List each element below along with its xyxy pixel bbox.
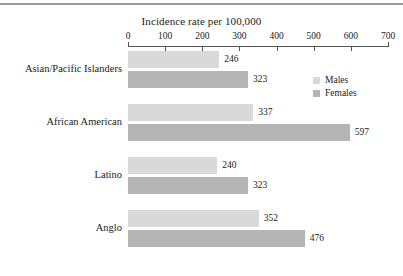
bar-females bbox=[128, 177, 248, 194]
bar-value-label: 246 bbox=[219, 54, 238, 64]
x-tick-label: 500 bbox=[307, 31, 321, 41]
bar-females bbox=[128, 71, 248, 88]
bar-females bbox=[128, 230, 305, 247]
category-label: Anglo bbox=[6, 222, 128, 233]
bar-males bbox=[128, 51, 219, 68]
bar-value-label: 323 bbox=[248, 180, 267, 190]
category-label: African American bbox=[6, 116, 128, 127]
x-tick-label: 200 bbox=[195, 31, 209, 41]
chart-legend: MalesFemales bbox=[313, 74, 357, 100]
legend-item: Males bbox=[313, 74, 357, 86]
x-tick-mark bbox=[388, 42, 389, 47]
bar-males bbox=[128, 104, 253, 121]
x-tick-label: 400 bbox=[269, 31, 283, 41]
legend-swatch-icon bbox=[313, 77, 320, 84]
category-label: Asian/Pacific Islanders bbox=[6, 63, 128, 74]
category-axis-labels: Asian/Pacific IslandersAfrican AmericanL… bbox=[0, 47, 128, 262]
bar-males bbox=[128, 210, 259, 227]
bar-group: 337597 bbox=[128, 104, 388, 153]
bar-value-label: 323 bbox=[248, 74, 267, 84]
x-tick-label: 100 bbox=[158, 31, 172, 41]
bar-group: 240323 bbox=[128, 157, 388, 206]
category-label: Latino bbox=[6, 169, 128, 180]
x-tick-label: 300 bbox=[232, 31, 246, 41]
bar-value-label: 597 bbox=[350, 127, 369, 137]
top-divider bbox=[0, 3, 403, 5]
bar-value-label: 476 bbox=[305, 233, 324, 243]
bar-value-label: 352 bbox=[259, 213, 278, 223]
legend-item: Females bbox=[313, 87, 357, 99]
legend-label: Males bbox=[325, 75, 348, 85]
legend-label: Females bbox=[325, 88, 357, 98]
x-tick-label: 0 bbox=[126, 31, 131, 41]
legend-swatch-icon bbox=[313, 90, 320, 97]
chart-title: Incidence rate per 100,000 bbox=[0, 15, 403, 27]
bar-value-label: 337 bbox=[253, 107, 272, 117]
bar-value-label: 240 bbox=[217, 160, 236, 170]
bar-males bbox=[128, 157, 217, 174]
x-tick-label: 600 bbox=[344, 31, 358, 41]
x-tick-label: 700 bbox=[381, 31, 395, 41]
bar-group: 352476 bbox=[128, 210, 388, 259]
chart-figure: Incidence rate per 100,000 0100200300400… bbox=[0, 0, 403, 276]
bar-females bbox=[128, 124, 350, 141]
